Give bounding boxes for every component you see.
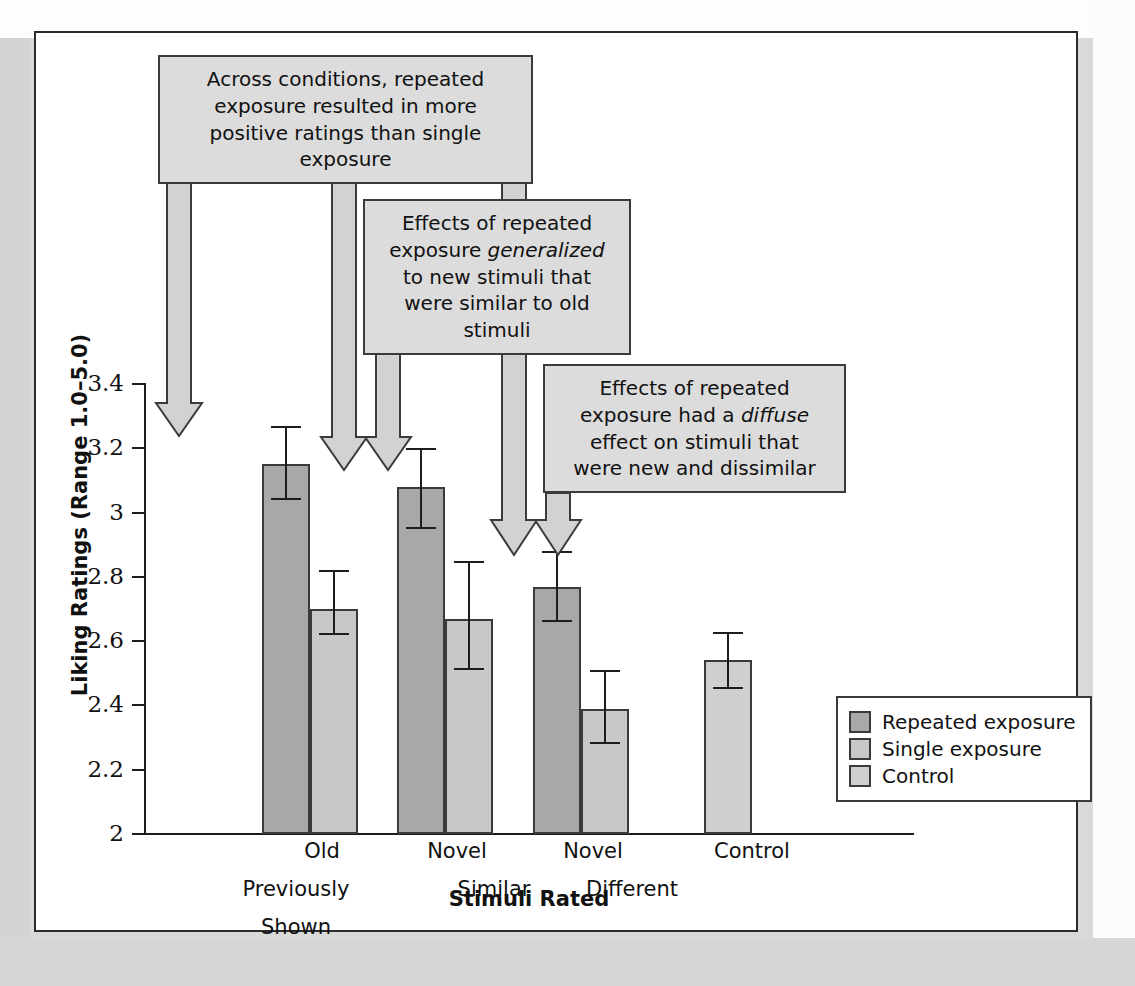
legend-swatch xyxy=(849,738,871,760)
error-bar-cap-top xyxy=(590,670,620,672)
legend-swatch xyxy=(849,765,871,787)
y-tick-mark xyxy=(132,704,145,706)
annotation-line: Effects of repeated xyxy=(557,375,832,402)
error-bar-cap-bottom xyxy=(454,668,484,670)
error-bar xyxy=(397,448,445,528)
y-tick-mark xyxy=(132,769,145,771)
x-axis-category-label: Control xyxy=(692,839,812,863)
error-bar-cap-bottom xyxy=(271,498,301,500)
bar[interactable] xyxy=(533,587,581,835)
y-tick-label: 2 xyxy=(58,820,124,846)
error-bar xyxy=(310,570,358,634)
y-axis-title: Liking Ratings (Range 1.0–5.0) xyxy=(68,305,92,725)
annotation-line: stimuli xyxy=(377,317,617,344)
error-bar-cap-top xyxy=(542,551,572,553)
legend-item-label: Control xyxy=(882,764,954,788)
error-bar xyxy=(533,551,581,622)
error-bar-stem xyxy=(333,570,335,634)
error-bar-cap-top xyxy=(406,448,436,450)
legend-item[interactable]: Single exposure xyxy=(849,737,1076,761)
page-margin-bottom xyxy=(0,938,1135,986)
y-axis-line xyxy=(144,383,146,834)
legend-item[interactable]: Control xyxy=(849,764,1076,788)
annotation-callout-1[interactable]: Across conditions, repeatedexposure resu… xyxy=(158,55,533,184)
x-axis-category-label: Old xyxy=(262,839,382,863)
y-tick-mark xyxy=(132,640,145,642)
error-bar-cap-bottom xyxy=(590,742,620,744)
arrow-to-novel-similar-repeated-a xyxy=(321,178,367,470)
y-tick-mark xyxy=(132,383,145,385)
annotation-line: positive ratings than single xyxy=(172,120,519,147)
error-bar-cap-top xyxy=(454,561,484,563)
x-axis-category-label: Different xyxy=(572,877,692,901)
annotation-line: exposure resulted in more xyxy=(172,93,519,120)
x-axis-category-label: Novel xyxy=(397,839,517,863)
error-bar-cap-top xyxy=(271,426,301,428)
x-axis-line xyxy=(144,833,914,835)
error-bar xyxy=(704,632,752,690)
bar[interactable] xyxy=(397,487,445,834)
error-bar-cap-top xyxy=(319,570,349,572)
legend-item-label: Repeated exposure xyxy=(882,710,1076,734)
x-axis-category-label: Novel xyxy=(533,839,653,863)
legend-swatch xyxy=(849,711,871,733)
annotation-line: exposure xyxy=(172,146,519,173)
error-bar-cap-bottom xyxy=(542,620,572,622)
y-tick-mark xyxy=(132,447,145,449)
annotation-callout-3[interactable]: Effects of repeatedexposure had a diffus… xyxy=(543,364,846,493)
error-bar-cap-bottom xyxy=(319,633,349,635)
annotation-line: to new stimuli that xyxy=(377,264,617,291)
arrow-to-old-repeated xyxy=(156,178,202,436)
error-bar-stem xyxy=(468,561,470,670)
arrow-to-novel-different-repeated-b xyxy=(535,493,581,555)
annotation-line: Across conditions, repeated xyxy=(172,66,519,93)
x-axis-category-label: Previously xyxy=(236,877,356,901)
annotation-line: were similar to old xyxy=(377,290,617,317)
annotation-line: effect on stimuli that xyxy=(557,429,832,456)
bar[interactable] xyxy=(310,609,358,834)
error-bar-stem xyxy=(727,632,729,690)
y-tick-mark xyxy=(132,576,145,578)
annotation-line: Effects of repeated xyxy=(377,210,617,237)
error-bar-cap-bottom xyxy=(406,527,436,529)
bar-chart: 3.43.232.82.62.42.22 Liking Ratings (Ran… xyxy=(36,33,1080,934)
page-margin-right xyxy=(1093,0,1135,986)
y-tick-mark xyxy=(132,833,145,835)
error-bar-cap-top xyxy=(713,632,743,634)
error-bar xyxy=(445,561,493,670)
annotation-line: exposure had a diffuse xyxy=(557,402,832,429)
legend-item[interactable]: Repeated exposure xyxy=(849,710,1076,734)
error-bar xyxy=(581,670,629,744)
annotation-line: were new and dissimilar xyxy=(557,455,832,482)
error-bar xyxy=(262,426,310,500)
annotation-line: exposure generalized xyxy=(377,237,617,264)
y-tick-mark xyxy=(132,512,145,514)
y-tick-label: 2.2 xyxy=(58,756,124,782)
error-bar-stem xyxy=(556,551,558,622)
page-margin-left xyxy=(0,38,30,938)
error-bar-cap-bottom xyxy=(713,687,743,689)
x-axis-category-label: Similar xyxy=(434,877,554,901)
error-bar-stem xyxy=(285,426,287,500)
bar[interactable] xyxy=(262,464,310,834)
chart-legend[interactable]: Repeated exposureSingle exposureControl xyxy=(836,696,1092,802)
error-bar-stem xyxy=(420,448,422,528)
error-bar-stem xyxy=(604,670,606,744)
legend-item-label: Single exposure xyxy=(882,737,1042,761)
x-axis-category-label: Shown xyxy=(236,915,356,939)
annotation-callout-2[interactable]: Effects of repeatedexposure generalizedt… xyxy=(363,199,631,355)
figure-frame: 3.43.232.82.62.42.22 Liking Ratings (Ran… xyxy=(34,31,1078,932)
